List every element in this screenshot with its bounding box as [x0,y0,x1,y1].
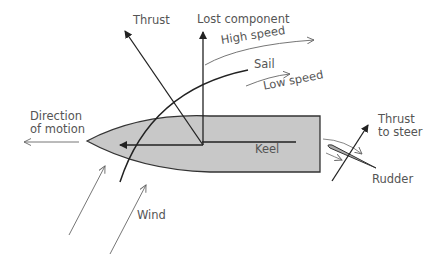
thrust-to-steer-label: Thrust to steer [378,113,423,139]
sail-label: Sail [254,58,275,71]
rudder [328,145,376,168]
thrust-label: Thrust [133,14,170,27]
wind-arrow-1 [69,166,105,235]
rudder-flow-arrow-lower [326,153,342,160]
keel-label: Keel [255,143,279,156]
thrust-to-steer-line2: to steer [378,126,423,139]
direction-label-line2: of motion [30,123,80,136]
thrust-to-steer-arrow [332,125,368,181]
rudder-label: Rudder [372,173,413,186]
wind-label: Wind [137,209,166,222]
direction-label: Direction of motion [30,110,80,136]
